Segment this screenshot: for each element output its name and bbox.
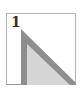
triangle-shape: [0, 0, 81, 90]
